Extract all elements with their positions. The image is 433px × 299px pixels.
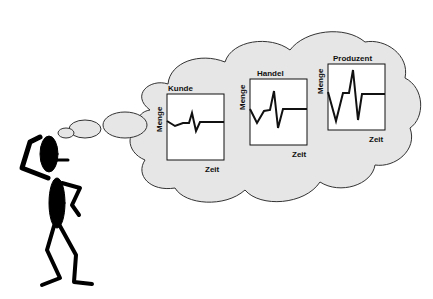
y-axis-label-kunde: Menge [155, 106, 164, 132]
chart-title-kunde: Kunde [168, 84, 193, 93]
chart-title-produzent: Produzent [333, 54, 372, 63]
thought-bubbles [58, 112, 147, 138]
x-axis-label-handel: Zeit [292, 150, 307, 159]
x-axis-label-kunde: Zeit [205, 165, 220, 174]
diagram-canvas: Kunde Zeit Menge Handel Zeit Menge Produ… [0, 0, 433, 299]
x-axis-label-produzent: Zeit [369, 135, 384, 144]
thinking-stick-figure [22, 136, 92, 285]
chart-title-handel: Handel [257, 69, 284, 78]
figure-head [40, 136, 58, 172]
y-axis-label-handel: Menge [238, 84, 247, 110]
y-axis-label-produzent: Menge [316, 68, 325, 94]
